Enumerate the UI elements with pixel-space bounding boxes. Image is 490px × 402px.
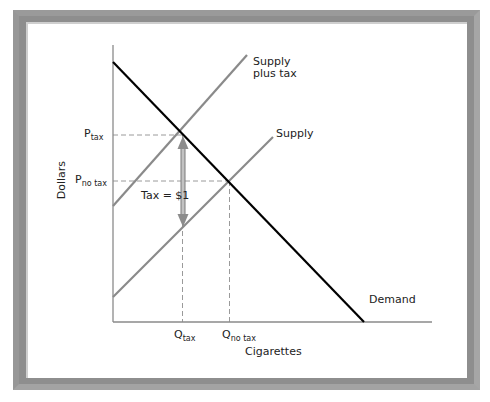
q-tax-label: Qtax xyxy=(174,329,195,341)
q-notax-letter: Q xyxy=(222,328,231,341)
supply-curve xyxy=(113,137,273,297)
p-tax-subscript: tax xyxy=(91,133,104,142)
axes xyxy=(113,45,432,322)
q-tax-letter: Q xyxy=(174,328,183,341)
supply-plus-tax-label: Supply plus tax xyxy=(253,56,297,80)
p-notax-letter: P xyxy=(75,173,82,186)
p-notax-subscript: no tax xyxy=(82,179,107,188)
q-notax-label: Qno tax xyxy=(222,329,256,341)
p-tax-label: Ptax xyxy=(84,128,103,140)
x-axis-label: Cigarettes xyxy=(245,346,302,358)
y-axis-label: Dollars xyxy=(56,160,68,200)
supply-plus-tax-line2: plus tax xyxy=(253,68,297,80)
demand-label: Demand xyxy=(369,294,416,306)
p-notax-label: Pno tax xyxy=(75,174,107,186)
q-notax-subscript: no tax xyxy=(231,334,256,343)
q-tax-subscript: tax xyxy=(183,334,196,343)
supply-label: Supply xyxy=(276,128,314,140)
p-tax-letter: P xyxy=(84,127,91,140)
tax-annotation-label: Tax = $1 xyxy=(141,190,189,202)
